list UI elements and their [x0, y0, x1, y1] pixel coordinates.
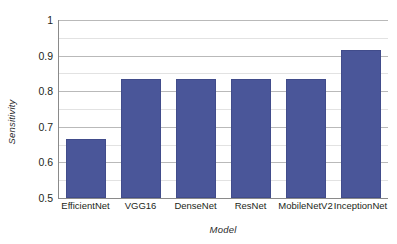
- gridline-minor: [58, 109, 388, 110]
- gridline-major: [58, 162, 388, 163]
- bar: [286, 79, 326, 198]
- gridline-major: [58, 91, 388, 92]
- y-tick-label: 0.6: [8, 156, 58, 168]
- x-tick-label: InceptionNet: [325, 200, 396, 211]
- gridline-major: [58, 127, 388, 128]
- bar: [231, 79, 271, 198]
- x-axis-tick-labels: EfficientNetVGG16DenseNetResNetMobileNet…: [58, 200, 388, 220]
- x-axis-title: Model: [58, 224, 388, 235]
- plot-area: [58, 20, 388, 198]
- gridline-minor: [58, 38, 388, 39]
- bar: [341, 50, 381, 198]
- y-axis-line: [58, 20, 59, 199]
- gridline-major: [58, 56, 388, 57]
- y-axis-tick-labels: 0.50.60.70.80.91: [0, 20, 58, 198]
- y-tick-label: 1: [8, 14, 58, 26]
- gridline-major: [58, 20, 388, 21]
- gridline-minor: [58, 180, 388, 181]
- y-tick-label: 0.7: [8, 121, 58, 133]
- gridline-minor: [58, 145, 388, 146]
- y-tick-label: 0.9: [8, 50, 58, 62]
- x-axis-line: [58, 198, 388, 199]
- bar: [66, 139, 106, 198]
- y-tick-label: 0.8: [8, 85, 58, 97]
- bar: [176, 79, 216, 198]
- bar: [121, 79, 161, 198]
- bar-chart-figure: Sensitivity 0.50.60.70.80.91 EfficientNe…: [0, 0, 397, 244]
- gridline-minor: [58, 73, 388, 74]
